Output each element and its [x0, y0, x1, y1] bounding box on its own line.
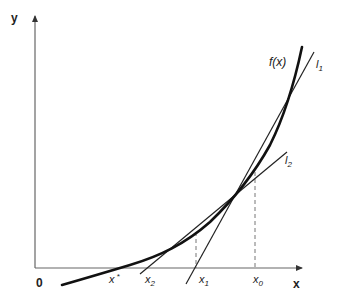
newton-method-diagram: y x 0 f(x) l1 l2 x* x2 x1 x0 — [0, 0, 338, 302]
origin-label: 0 — [36, 276, 43, 290]
x1-label: x1 — [198, 273, 209, 288]
function-curve — [62, 47, 302, 285]
l1-label: l1 — [316, 58, 323, 73]
x-star-label: x* — [108, 272, 121, 285]
x-axis-label: x — [293, 277, 300, 291]
curve-label: f(x) — [269, 55, 286, 69]
l2-label: l2 — [285, 154, 292, 169]
y-axis-label: y — [11, 11, 18, 25]
x2-label: x2 — [144, 273, 156, 288]
tangent-line-l2 — [140, 152, 287, 274]
tangent-line-l1 — [186, 52, 314, 284]
x0-label: x0 — [252, 273, 264, 288]
